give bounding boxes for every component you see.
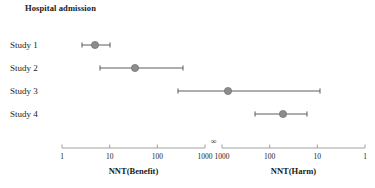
ci-lines-group — [82, 42, 320, 116]
point-estimate-marker — [91, 41, 98, 48]
point-estimate-marker — [131, 64, 138, 71]
axis-label-benefit: NNT(Benefit) — [109, 166, 159, 176]
markers-group — [91, 41, 286, 117]
tick-label: 1 — [60, 152, 64, 161]
point-estimate-marker — [279, 110, 286, 117]
study-label-4: Study 4 — [10, 109, 38, 119]
study-label-1: Study 1 — [10, 40, 38, 50]
study-label-2: Study 2 — [10, 63, 38, 73]
tick-label: 1000 — [215, 152, 230, 161]
axis-label-harm: NNT(Harm) — [271, 166, 316, 176]
tick-label: 1000 — [198, 152, 213, 161]
infinity-break-symbol: ∞ — [211, 137, 217, 146]
tick-label: 100 — [264, 152, 275, 161]
point-estimate-marker — [224, 87, 231, 94]
tick-label: 10 — [106, 152, 114, 161]
study-label-3: Study 3 — [10, 86, 38, 96]
tick-label: 100 — [152, 152, 163, 161]
tick-label: 1 — [363, 152, 367, 161]
tick-label: 10 — [314, 152, 322, 161]
